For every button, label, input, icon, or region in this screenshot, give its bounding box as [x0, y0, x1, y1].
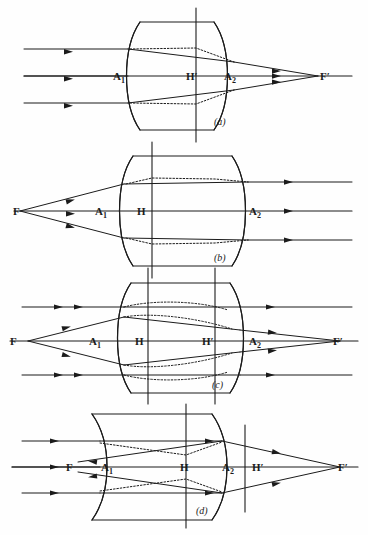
figure-canvas: A1 H′ A2 F′ (a) [0, 0, 368, 535]
label-h-prime-a: H′ [186, 70, 198, 82]
label-f-d: F [66, 461, 73, 473]
label-h-b: H [137, 205, 146, 217]
label-f-prime-d: F′ [338, 461, 348, 473]
label-h-prime-c: H′ [202, 335, 214, 347]
label-f-prime-c: F′ [333, 335, 343, 347]
panel-tag-d: (d) [196, 505, 208, 517]
label-h-prime-d: H′ [252, 461, 264, 473]
label-f-b: F [13, 205, 20, 217]
panel-tag-b: (b) [214, 252, 226, 264]
optics-figure: A1 H′ A2 F′ (a) [0, 0, 368, 535]
panel-tag-c: (c) [212, 379, 224, 391]
panel-tag-a: (a) [214, 116, 226, 128]
label-h-c: H [135, 335, 144, 347]
label-h-d: H [180, 461, 189, 473]
label-f-c: F [10, 335, 17, 347]
label-f-prime-a: F′ [320, 70, 330, 82]
